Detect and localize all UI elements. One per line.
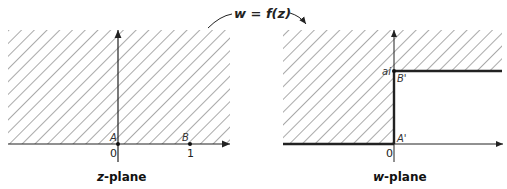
w-plane-caption: w-plane (373, 170, 427, 184)
conformal-map-diagram: A B 0 1 z-plane w = f(z) ai B' A' 0 w-pl… (0, 0, 507, 189)
w-label-A: A' (396, 133, 407, 144)
z-plane-caption: z-plane (96, 170, 146, 184)
z-one-tick: 1 (187, 147, 194, 160)
z-plane: A B 0 1 z-plane (8, 30, 230, 184)
z-label-B: B (182, 132, 189, 143)
z-label-A: A (109, 132, 117, 143)
mapping-arrow: w = f(z) (208, 6, 306, 28)
z-shaded-region (8, 30, 230, 144)
w-shaded-region (283, 30, 502, 144)
w-ai-tick: ai (382, 66, 391, 77)
z-origin-tick: 0 (110, 147, 117, 160)
w-plane: ai B' A' 0 w-plane (283, 30, 503, 184)
mapping-label: w = f(z) (234, 6, 291, 21)
w-point-B (392, 69, 396, 73)
w-label-B: B' (397, 73, 407, 84)
w-origin-tick: 0 (386, 147, 393, 160)
